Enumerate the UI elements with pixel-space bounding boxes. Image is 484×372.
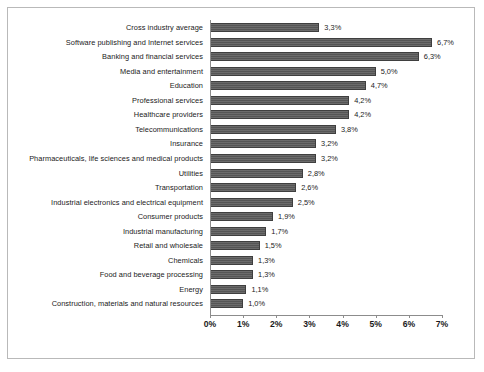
category-label: Banking and financial services (102, 49, 203, 64)
bar (210, 227, 266, 236)
bar (210, 183, 296, 192)
x-tick-mark (276, 315, 277, 318)
bar-row: Banking and financial services6,3% (8, 49, 474, 64)
bar-row: Utilities2,8% (8, 166, 474, 181)
bar-value-label: 2,5% (298, 195, 315, 210)
bar-row: Pharmaceuticals, life sciences and medic… (8, 151, 474, 166)
plot-area: Cross industry average3,3%Software publi… (8, 8, 474, 358)
bar-track: 3,2% (210, 151, 470, 166)
category-label: Food and beverage processing (100, 267, 203, 282)
bar-track: 3,2% (210, 136, 470, 151)
category-label: Pharmaceuticals, life sciences and medic… (29, 151, 203, 166)
bar-row: Chemicals1,3% (8, 253, 474, 268)
bar (210, 81, 366, 90)
bar (210, 110, 349, 119)
bar (210, 23, 319, 32)
bar (210, 212, 273, 221)
bar-value-label: 1,0% (248, 296, 265, 311)
chart-frame: Cross industry average3,3%Software publi… (7, 7, 475, 359)
bar-track: 2,8% (210, 166, 470, 181)
x-tick-label: 0% (204, 319, 216, 329)
x-tick-mark (409, 315, 410, 318)
bar (210, 38, 432, 47)
bar-track: 1,7% (210, 224, 470, 239)
bar (210, 125, 336, 134)
bar-track: 2,6% (210, 180, 470, 195)
x-tick-label: 7% (436, 319, 448, 329)
bar-value-label: 1,9% (278, 209, 295, 224)
bar-track: 1,1% (210, 282, 470, 297)
bar-row: Professional services4,2% (8, 93, 474, 108)
category-label: Healthcare providers (134, 107, 203, 122)
bar-value-label: 1,3% (258, 253, 275, 268)
x-tick-mark (343, 315, 344, 318)
bar-value-label: 6,3% (424, 49, 441, 64)
category-label: Retail and wholesale (134, 238, 203, 253)
category-label: Cross industry average (126, 20, 203, 35)
bar-track: 6,7% (210, 35, 470, 50)
bar (210, 169, 303, 178)
bar-value-label: 1,1% (251, 282, 268, 297)
bar-value-label: 1,7% (271, 224, 288, 239)
category-label: Insurance (170, 136, 203, 151)
bar-value-label: 4,2% (354, 93, 371, 108)
bar-row: Construction, materials and natural reso… (8, 296, 474, 311)
bar-row: Telecommunications3,8% (8, 122, 474, 137)
bar (210, 299, 243, 308)
x-tick-label: 3% (303, 319, 315, 329)
category-label: Education (170, 78, 203, 93)
bar-row: Transportation2,6% (8, 180, 474, 195)
category-label: Software publishing and Internet service… (66, 35, 203, 50)
bar (210, 154, 316, 163)
bar-row: Energy1,1% (8, 282, 474, 297)
y-axis-line (210, 20, 211, 315)
bar-value-label: 1,5% (265, 238, 282, 253)
bar-track: 4,2% (210, 107, 470, 122)
bar (210, 241, 260, 250)
bar (210, 67, 376, 76)
bar-value-label: 5,0% (381, 64, 398, 79)
x-tick-label: 5% (369, 319, 381, 329)
bar-track: 3,8% (210, 122, 470, 137)
category-label: Consumer products (138, 209, 203, 224)
bar (210, 52, 419, 61)
bar-track: 6,3% (210, 49, 470, 64)
x-axis-line (210, 315, 442, 316)
bar-value-label: 6,7% (437, 35, 454, 50)
bar-track: 3,3% (210, 20, 470, 35)
bar-track: 5,0% (210, 64, 470, 79)
bar-value-label: 2,6% (301, 180, 318, 195)
bar-value-label: 2,8% (308, 166, 325, 181)
bar-row: Healthcare providers4,2% (8, 107, 474, 122)
bar-value-label: 3,3% (324, 20, 341, 35)
category-label: Industrial electronics and electrical eq… (51, 195, 203, 210)
x-tick-mark (376, 315, 377, 318)
category-label: Construction, materials and natural reso… (52, 296, 203, 311)
bar-track: 1,5% (210, 238, 470, 253)
bar (210, 285, 246, 294)
bar-track: 4,2% (210, 93, 470, 108)
bar-row: Media and entertainment5,0% (8, 64, 474, 79)
category-label: Industrial manufacturing (123, 224, 203, 239)
category-label: Utilities (179, 166, 203, 181)
bar-value-label: 4,7% (371, 78, 388, 93)
x-tick-label: 6% (403, 319, 415, 329)
bar-row: Insurance3,2% (8, 136, 474, 151)
bar-track: 2,5% (210, 195, 470, 210)
category-label: Telecommunications (135, 122, 203, 137)
x-tick-label: 1% (237, 319, 249, 329)
x-tick-mark (243, 315, 244, 318)
bar-row: Software publishing and Internet service… (8, 35, 474, 50)
bar-row: Food and beverage processing1,3% (8, 267, 474, 282)
bar-row: Cross industry average3,3% (8, 20, 474, 35)
category-label: Energy (179, 282, 203, 297)
bar (210, 270, 253, 279)
x-tick-mark (442, 315, 443, 318)
bar-track: 1,9% (210, 209, 470, 224)
bar-row: Industrial electronics and electrical eq… (8, 195, 474, 210)
bar (210, 96, 349, 105)
category-label: Chemicals (168, 253, 203, 268)
bar-value-label: 4,2% (354, 107, 371, 122)
bar-track: 1,3% (210, 267, 470, 282)
bar (210, 198, 293, 207)
